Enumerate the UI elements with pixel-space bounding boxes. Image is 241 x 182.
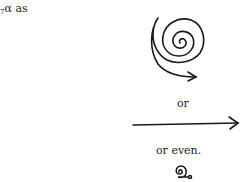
or-even-text: or even.: [156, 145, 201, 157]
figures-canvas: [0, 0, 241, 182]
straight-arrow-icon: [133, 117, 238, 129]
or-text: or: [177, 98, 189, 110]
large-spiral-arrow-icon: [152, 18, 204, 81]
small-spiral-icon: [176, 166, 191, 179]
